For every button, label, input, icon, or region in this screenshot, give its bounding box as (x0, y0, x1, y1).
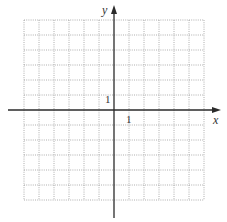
x-tick-label: 1 (126, 113, 132, 125)
x-axis-label: x (212, 113, 219, 127)
y-axis-label: y (101, 3, 108, 17)
y-tick-label: 1 (105, 93, 111, 105)
y-axis-arrow-icon (111, 5, 117, 14)
y-axis (111, 5, 117, 218)
coordinate-plane: y x 1 1 (0, 0, 227, 222)
